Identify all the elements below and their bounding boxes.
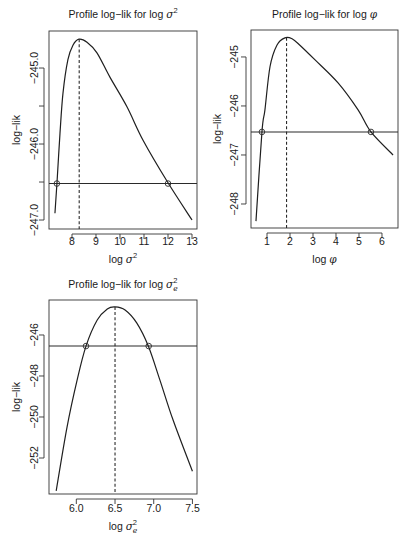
- x-tick-label: 10: [114, 235, 126, 247]
- x-tick-label: 7.5: [185, 502, 200, 514]
- x-tick-label: 5: [356, 235, 362, 247]
- y-tick-label: −248: [28, 364, 40, 388]
- x-tick-label: 7.0: [146, 502, 161, 514]
- x-axis-title-subscript: e: [133, 526, 138, 535]
- plot-title-prefix: Profile log−lik for log: [272, 8, 370, 20]
- figure-background: [0, 0, 407, 549]
- y-tick-label: −246: [228, 94, 240, 118]
- plot-title: Profile log−lik for log σ2: [68, 6, 177, 20]
- y-tick-label: −245.0: [28, 52, 40, 85]
- x-tick-label: 2: [287, 235, 293, 247]
- plot-title-superscript: 2: [173, 6, 177, 15]
- y-tick-label: −245: [228, 45, 240, 69]
- profile-likelihood-figure: Profile log−lik for log σ28910111213log …: [0, 0, 407, 549]
- x-axis-title-prefix: log: [312, 253, 329, 265]
- y-tick-label: −247: [228, 143, 240, 167]
- plot-title-subscript: e: [173, 284, 178, 293]
- x-tick-label: 11: [139, 235, 150, 247]
- y-tick-label: −252: [28, 446, 40, 470]
- x-axis-title-prefix: log: [109, 253, 126, 265]
- x-tick-label: 4: [333, 235, 339, 247]
- x-tick-label: 6.0: [69, 502, 84, 514]
- plot-title-prefix: Profile log−lik for log: [68, 8, 166, 20]
- x-tick-label: 1: [264, 235, 270, 247]
- x-tick-label: 13: [186, 235, 198, 247]
- plot-title-prefix: Profile log−lik for log: [68, 278, 166, 290]
- x-tick-label: 12: [162, 235, 174, 247]
- x-axis-title-prefix: log: [109, 520, 126, 532]
- x-tick-label: 8: [69, 235, 75, 247]
- x-axis-title-symbol: φ: [329, 253, 337, 265]
- y-tick-label: −247.0: [28, 204, 40, 237]
- plot-title-superscript: 2: [173, 276, 177, 285]
- y-axis-title: log−lik: [10, 381, 22, 412]
- x-tick-label: 6.5: [108, 502, 123, 514]
- x-axis-title: log σ2: [109, 251, 137, 265]
- x-axis-title-superscript: 2: [133, 251, 137, 260]
- x-tick-label: 3: [310, 235, 316, 247]
- x-tick-label: 6: [379, 235, 385, 247]
- y-tick-label: −246.0: [28, 128, 40, 161]
- plot-title: Profile log−lik for log φ: [272, 8, 378, 20]
- x-axis-title-superscript: 2: [133, 518, 137, 527]
- x-axis-title: log φ: [312, 253, 337, 265]
- y-axis-title: log−lik: [10, 114, 22, 145]
- plot-title-symbol: φ: [370, 8, 378, 20]
- x-tick-label: 9: [93, 235, 99, 247]
- y-tick-label: −250: [28, 405, 40, 429]
- y-tick-label: −248: [228, 192, 240, 216]
- y-tick-label: −246: [28, 323, 40, 347]
- y-axis-title: log−lik: [211, 113, 223, 144]
